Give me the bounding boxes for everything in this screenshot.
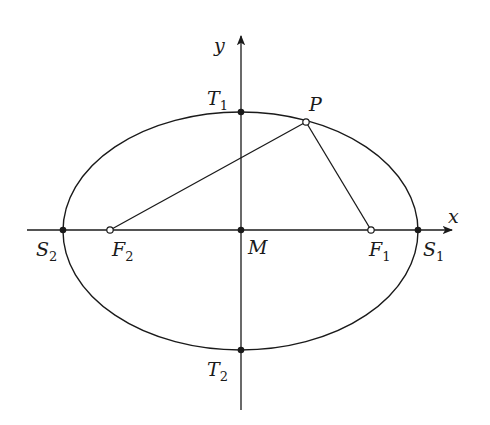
point-s1	[415, 227, 422, 234]
point-t1	[238, 109, 245, 116]
point-f1	[368, 227, 374, 233]
label-t1: T1	[207, 87, 228, 113]
ellipse-diagram: y x T1 T2 P M S2 F2 F1 S1	[0, 0, 490, 425]
label-s1: S1	[423, 238, 444, 264]
segment-f2-p	[110, 122, 306, 230]
label-f1: F1	[368, 238, 390, 264]
point-f2	[107, 227, 113, 233]
label-f2: F2	[111, 238, 133, 264]
point-m	[238, 227, 245, 234]
label-m: M	[247, 236, 268, 258]
segment-p-f1	[306, 122, 371, 230]
label-t2: T2	[207, 358, 228, 384]
label-s2: S2	[36, 238, 57, 264]
point-p	[303, 119, 309, 125]
label-y-axis: y	[213, 34, 225, 56]
label-p: P	[308, 93, 323, 115]
point-s2	[60, 227, 67, 234]
point-t2	[238, 347, 245, 354]
label-x-axis: x	[448, 205, 459, 227]
